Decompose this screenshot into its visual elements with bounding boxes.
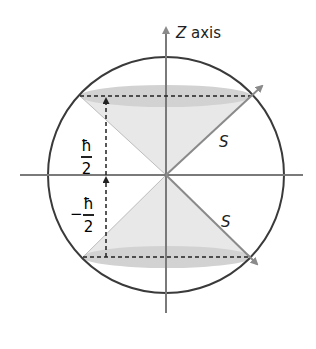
lower-projection-label: ħ 2 [83, 196, 94, 235]
z-axis-label-text: axis [186, 24, 221, 42]
z-axis-label: Z axis [176, 24, 221, 42]
lower-denominator: 2 [84, 218, 94, 236]
upper-projection-label: ħ 2 [81, 138, 92, 177]
spin-cone-diagram [0, 0, 316, 349]
upper-denominator: 2 [82, 160, 92, 178]
lower-sign: − [70, 205, 83, 223]
lower-numerator: ħ [83, 195, 93, 213]
spin-label-lower: S [221, 213, 231, 231]
upper-numerator: ħ [81, 137, 91, 155]
fraction-bar [81, 156, 92, 158]
fraction-bar [83, 214, 94, 216]
z-axis-label-var: Z [176, 24, 186, 42]
spin-label-upper: S [219, 133, 229, 151]
